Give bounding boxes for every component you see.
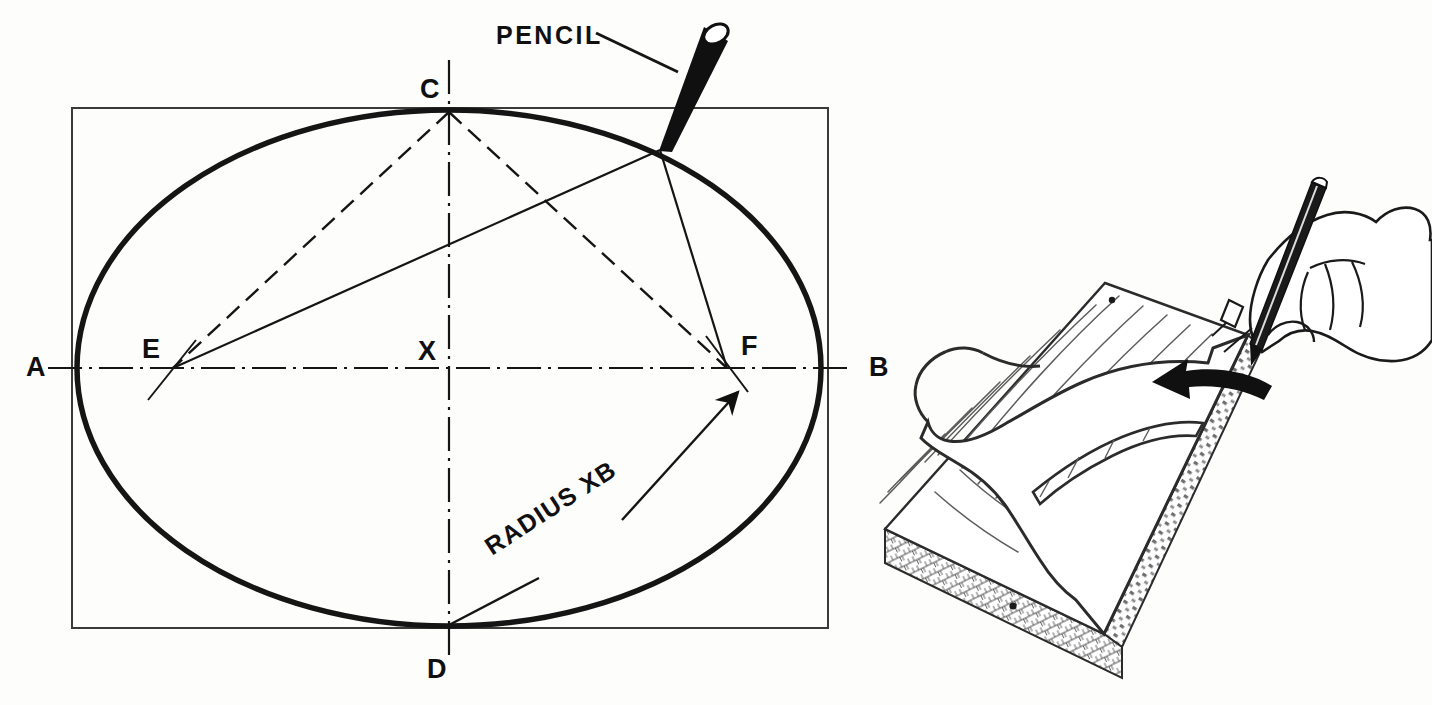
label-pencil: PENCIL [496, 21, 603, 49]
pencil-graphic [659, 20, 732, 152]
construction-line-c-e [173, 112, 449, 368]
ellipse-construction-diagram: A B C D E F X PENCIL RADIUS XB [26, 20, 889, 684]
technical-drawing-canvas: A B C D E F X PENCIL RADIUS XB [0, 0, 1432, 705]
construction-line-c-f [449, 112, 727, 368]
radius-leader-upper [622, 392, 738, 520]
pencil-body [659, 27, 728, 152]
cuff-detail [1221, 300, 1243, 327]
string-line-pencil-to-f [660, 150, 727, 368]
label-point-f: F [741, 331, 758, 361]
label-point-d: D [427, 654, 447, 684]
nail-head-lower-icon [1009, 602, 1016, 609]
figure-root: A B C D E F X PENCIL RADIUS XB [0, 0, 1432, 705]
label-point-c: C [420, 74, 440, 104]
board-template-illustration [880, 178, 1432, 678]
nail-head-upper-icon [1109, 297, 1115, 303]
label-point-x: X [418, 336, 437, 366]
string-line-pencil-to-e [173, 150, 660, 368]
label-point-b: B [869, 352, 889, 382]
template-left-lobe [915, 348, 983, 422]
label-point-a: A [26, 352, 46, 382]
pencil-leader-line [596, 33, 678, 72]
label-point-e: E [142, 334, 161, 364]
label-radius-xb: RADIUS XB [479, 454, 621, 560]
